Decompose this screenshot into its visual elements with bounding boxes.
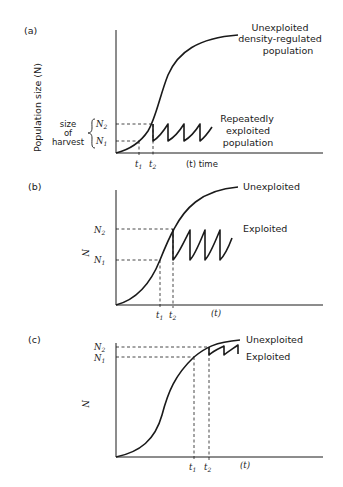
exploited-curve-c: [209, 345, 238, 355]
brace-label-line3: harvest: [52, 137, 85, 147]
y-axis-label-a: Population size (N): [32, 63, 43, 152]
y-axis-label-c: N: [80, 399, 90, 408]
x-axis-label-c: (t): [240, 460, 250, 470]
n2-label-b: N2: [93, 225, 105, 236]
n2-label-c: N2: [93, 342, 105, 353]
unexploited-label-a-line2: density-regulated: [238, 33, 322, 44]
exploited-label-c: Exploited: [246, 351, 290, 362]
panel-label-b: (b): [28, 181, 41, 192]
panel-label-c: (c): [28, 334, 41, 345]
unexploited-curve-a: [116, 35, 238, 153]
t2-label-b: t2: [169, 310, 176, 321]
panel-a: (a) Population size (N) N2 N1 size of ha…: [24, 22, 323, 170]
t2-label-a: t2: [149, 159, 156, 170]
y-axis-label-b: N: [80, 248, 90, 257]
n1-label-c: N1: [93, 353, 105, 364]
t1-label-a: t1: [135, 159, 142, 170]
exploited-label-b: Exploited: [243, 223, 287, 234]
unexploited-curve-c: [116, 340, 240, 457]
t2-label-c: t2: [204, 462, 211, 473]
panel-c: (c) N N2 N1 t1 t2 (t) Unexploited Exploi…: [28, 334, 323, 473]
n1-label-b: N1: [93, 255, 105, 266]
unexploited-label-a-line1: Unexploited: [252, 22, 309, 33]
x-axis-label-b: (t): [211, 308, 221, 318]
exploited-curve-b: [173, 229, 232, 260]
panel-b: (b) N N2 N1 t1 t2 (t) Unexploited Exploi…: [28, 181, 323, 321]
panel-label-a: (a): [24, 25, 37, 36]
unexploited-label-a-line3: population: [263, 45, 314, 56]
x-axis-label-a: (t) time: [186, 159, 218, 169]
harvest-population-figure: (a) Population size (N) N2 N1 size of ha…: [0, 0, 343, 487]
exploited-label-a-line3: population: [223, 137, 274, 148]
unexploited-label-b: Unexploited: [243, 181, 300, 192]
exploited-curve-a: [153, 124, 212, 141]
n2-label-a: N2: [95, 119, 107, 130]
t1-label-b: t1: [156, 310, 163, 321]
exploited-label-a-line2: exploited: [226, 125, 270, 136]
n1-label-a: N1: [95, 136, 107, 147]
unexploited-label-c: Unexploited: [246, 334, 303, 345]
harvest-brace: [88, 119, 95, 148]
t1-label-c: t1: [189, 462, 196, 473]
exploited-label-a-line1: Repeatedly: [220, 113, 274, 124]
